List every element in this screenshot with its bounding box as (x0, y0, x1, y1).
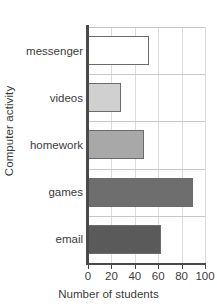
x-axis-tick-label: 20 (105, 270, 118, 282)
x-axis-tick (205, 264, 206, 269)
bar-band (88, 27, 205, 74)
x-axis-tick (158, 264, 159, 269)
y-axis-tick-label: homework (18, 121, 87, 168)
y-axis-tick-label: games (18, 169, 87, 216)
x-axis-tick-label: 60 (152, 270, 165, 282)
bar-email[interactable] (88, 225, 161, 254)
bar-messenger[interactable] (88, 36, 149, 65)
y-axis-tick-label: videos (18, 74, 87, 121)
x-axis-spine (86, 263, 206, 265)
bar-band (88, 169, 205, 216)
y-axis-spine (86, 25, 89, 265)
plot-area (88, 27, 205, 263)
bar-band (88, 216, 205, 263)
y-axis-tick-label: email (18, 216, 87, 263)
bar-games[interactable] (88, 178, 193, 207)
vertical-gridline (205, 27, 206, 263)
x-axis-tick (182, 264, 183, 269)
x-axis-tick-label: 40 (128, 270, 141, 282)
y-axis-title-text: Computer activity (3, 86, 15, 177)
y-axis-title: Computer activity (0, 0, 18, 262)
bar-homework[interactable] (88, 130, 144, 159)
x-axis-title: Number of students (0, 288, 217, 300)
bar-chart: Computer activity messengervideoshomewor… (0, 0, 217, 308)
y-axis-tick-label: messenger (18, 27, 87, 74)
x-axis-tick-label: 80 (175, 270, 188, 282)
bar-band (88, 121, 205, 168)
bar-videos[interactable] (88, 83, 121, 112)
y-axis-tick-labels: messengervideoshomeworkgamesemail (18, 27, 87, 263)
bar-band (88, 74, 205, 121)
x-axis-tick-label: 0 (85, 270, 91, 282)
x-axis-tick-label: 100 (195, 270, 214, 282)
x-axis-tick (88, 264, 89, 269)
x-axis-tick (135, 264, 136, 269)
x-axis-tick (111, 264, 112, 269)
